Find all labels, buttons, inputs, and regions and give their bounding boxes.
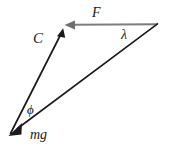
vector-C-arrowhead xyxy=(57,28,65,38)
vector-C-shaft xyxy=(11,34,62,134)
vector-lambda xyxy=(8,24,157,136)
vector-F-arrowhead xyxy=(65,21,76,30)
vector-label-C: C xyxy=(33,31,43,46)
vector-F-shaft xyxy=(73,24,157,25)
vector-label-F: F xyxy=(92,6,101,20)
vector-diagram-figure: C F λ ϕ mg xyxy=(0,0,170,153)
vector-label-mg: mg xyxy=(30,128,47,142)
vector-F xyxy=(65,21,158,30)
vector-diagram-canvas xyxy=(0,0,170,153)
vector-label-lambda: λ xyxy=(121,28,127,42)
angle-label-phi: ϕ xyxy=(27,103,34,116)
